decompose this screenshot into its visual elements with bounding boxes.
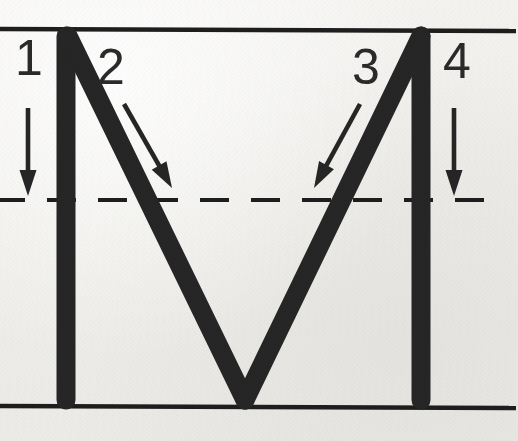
stroke-arrow-4-head <box>446 170 463 196</box>
stroke-arrow-2-head <box>152 161 172 188</box>
stroke-arrow-1-head <box>20 170 37 196</box>
direction-arrows-layer <box>0 0 518 441</box>
stroke-arrow-3-shaft <box>324 104 360 170</box>
stroke-label-3: 3 <box>352 42 379 92</box>
stroke-label-1: 1 <box>15 33 42 83</box>
handwriting-worksheet: 1234 <box>0 0 518 441</box>
stroke-label-4: 4 <box>443 36 470 86</box>
stroke-arrow-3-head <box>314 161 334 188</box>
stroke-label-2: 2 <box>97 42 124 92</box>
stroke-arrow-2-shaft <box>124 104 162 170</box>
